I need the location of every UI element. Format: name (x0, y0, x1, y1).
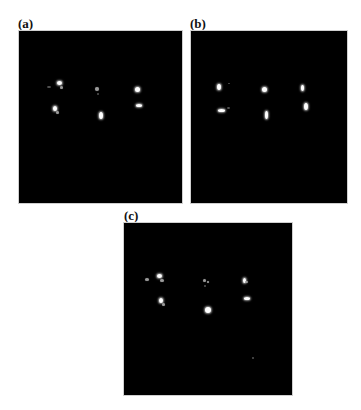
spot (145, 278, 149, 281)
spot (57, 81, 62, 85)
spot (47, 86, 51, 88)
spot (265, 111, 268, 119)
spot (95, 87, 99, 91)
spot (56, 111, 59, 114)
panel-c-label: (c) (124, 209, 138, 222)
panel-b-label: (b) (190, 17, 206, 30)
spot (204, 285, 206, 287)
spot (97, 93, 99, 95)
panel-a-label: (a) (18, 17, 33, 30)
spot (218, 109, 225, 112)
spot (203, 279, 206, 282)
spot (162, 303, 165, 306)
spot (60, 86, 63, 89)
panel-a-image (18, 30, 183, 204)
spot (245, 281, 248, 283)
panel-b-image (190, 30, 348, 204)
spot (217, 84, 221, 90)
spot (262, 87, 267, 92)
spot (207, 281, 209, 283)
spot (99, 112, 103, 119)
spot (227, 107, 230, 109)
spot (244, 297, 250, 300)
spot (136, 104, 142, 107)
spot (135, 87, 140, 92)
spot (160, 279, 164, 282)
spot (157, 274, 162, 278)
spot (304, 103, 308, 110)
panel-c-image (123, 222, 293, 396)
spot (228, 83, 230, 84)
spot (301, 85, 304, 91)
spot (252, 357, 254, 359)
spot (205, 307, 211, 313)
